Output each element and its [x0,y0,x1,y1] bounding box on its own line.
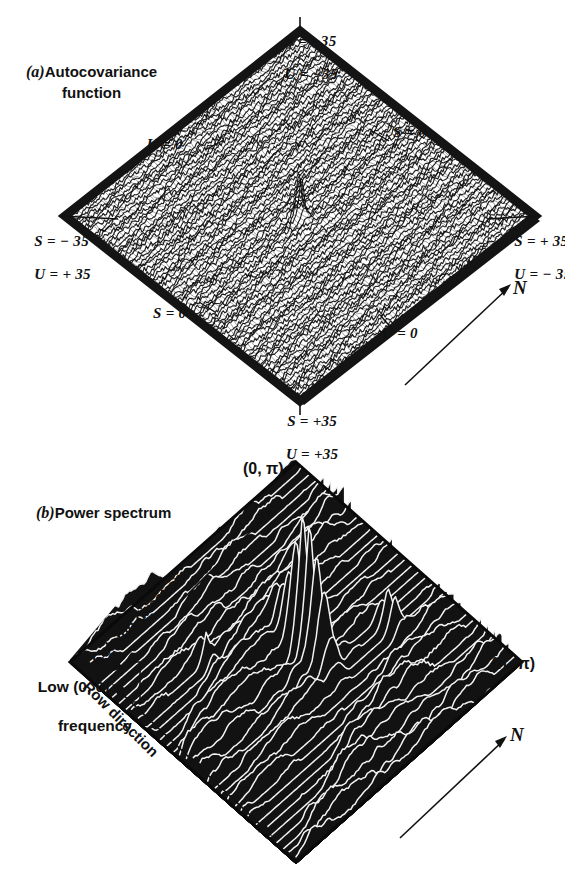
panel-a-caption: (a)Autocovariance function [26,62,157,102]
compass-label-a: N [513,277,527,299]
corner-label-right-a: S = + 35 U = − 35 [490,216,565,300]
corner-label-left-a: S = − 35 U = + 35 [10,216,120,300]
panel-a-tag: (a) [26,63,45,80]
figure-root: (a)Autocovariance function S = −35 U = −… [0,0,565,887]
panel-power-spectrum: (b)Power spectrum (0, π) (π, π) (π, 0) L… [0,440,565,887]
corner-label-top-a: S = −35 U = −35 [239,16,359,100]
panel-b-caption: (b)Power spectrum [36,503,171,524]
panel-autocovariance: (a)Autocovariance function S = −35 U = −… [0,0,565,440]
corner-label-right-b: (π, π) [491,655,535,673]
corner-label-top-a-line2: U = −35 [285,66,338,82]
edge-label-s0-lower: S = 0 [153,305,186,322]
edge-label-s0-upper: S = 0 [393,124,426,141]
corner-label-top-b: (0, π) [243,460,284,478]
panel-a-caption-line2: function [26,83,157,103]
panel-b-caption-line1: Power spectrum [55,504,172,521]
corner-label-top-a-line1: S = −35 [286,33,337,49]
corner-label-right-a-line1: S = + 35 [514,233,565,249]
corner-label-left-a-line1: S = − 35 [34,233,89,249]
corner-label-bottom-a-line1: S = +35 [287,413,337,429]
low-frequency-prefix: Low [38,678,69,695]
corner-label-left-a-line2: U = + 35 [34,266,91,282]
edge-label-u0-upper: U = 0 [147,136,183,153]
compass-label-b: N [510,724,524,746]
edge-label-u0-lower: U = 0 [382,325,418,342]
panel-a-caption-line1: Autocovariance [45,63,158,80]
panel-b-tag: (b) [36,504,55,521]
